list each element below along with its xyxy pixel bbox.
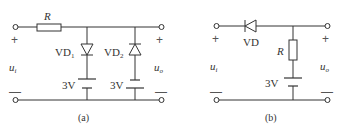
- output-plus-sign: +: [322, 32, 329, 46]
- input-terminal-top: [214, 24, 219, 29]
- diode2-label: VD2: [104, 46, 124, 60]
- output-plus-sign: +: [156, 33, 163, 47]
- battery-label: 3V: [265, 77, 279, 89]
- caption-a: (a): [78, 112, 89, 124]
- input-minus-sign: —: [210, 85, 222, 99]
- input-terminal-top: [13, 25, 18, 30]
- resistor-label: R: [276, 45, 284, 57]
- output-terminal-top: [325, 24, 330, 29]
- output-voltage-label: uo: [154, 61, 164, 75]
- diode-vd: [245, 20, 256, 32]
- caption-b: (b): [265, 112, 277, 124]
- diode-vd1: [81, 44, 93, 55]
- circuit-figure: R VD1 VD2 3V 3V + ui — + uo — (a) VD: [0, 0, 341, 136]
- input-minus-sign: —: [9, 85, 21, 99]
- resistor-r: [289, 40, 297, 60]
- input-plus-sign: +: [212, 32, 219, 46]
- output-terminal-top: [159, 25, 164, 30]
- battery1-label: 3V: [62, 79, 76, 91]
- diode-label: VD: [243, 36, 259, 48]
- diode-vd2: [129, 44, 141, 55]
- resistor-label: R: [43, 10, 51, 22]
- input-voltage-label: ui: [210, 60, 218, 74]
- battery2-label: 3V: [110, 79, 124, 91]
- circuit-b: VD R 3V + ui — + uo — (b): [210, 20, 333, 124]
- input-plus-sign: +: [11, 33, 18, 47]
- output-minus-sign: —: [321, 85, 333, 99]
- resistor-r: [37, 24, 61, 31]
- input-voltage-label: ui: [9, 61, 17, 75]
- circuit-a: R VD1 VD2 3V 3V + ui — + uo — (a): [9, 10, 167, 124]
- output-voltage-label: uo: [320, 60, 330, 74]
- diode1-label: VD1: [55, 46, 75, 60]
- output-minus-sign: —: [155, 85, 167, 99]
